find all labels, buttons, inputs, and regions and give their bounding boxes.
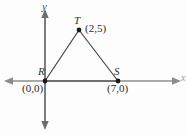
vertex-coordinate-T: (2,5): [85, 23, 106, 34]
vertex-point-R: [43, 79, 48, 84]
vertex-label-S: S: [114, 66, 120, 77]
vertex-point-T: [77, 28, 82, 33]
vertex-coordinate-S: (7,0): [107, 83, 128, 94]
x-axis-label: x: [181, 73, 185, 83]
vertex-label-R: R: [38, 66, 45, 77]
vertex-coordinate-R: (0,0): [22, 83, 43, 94]
vertex-label-T: T: [74, 15, 80, 26]
y-axis-label: y: [42, 1, 47, 12]
x-axis-left-arrow-icon: [4, 77, 13, 85]
coordinate-plane-svg: [0, 0, 186, 135]
edge-RT: [45, 30, 79, 81]
edge-TS: [79, 30, 118, 81]
y-axis-down-arrow-icon: [41, 121, 48, 130]
coordinate-plane-figure: T (2,5) R (0,0) S (7,0) y x: [0, 0, 186, 135]
x-axis-right-arrow-icon: [172, 77, 181, 85]
